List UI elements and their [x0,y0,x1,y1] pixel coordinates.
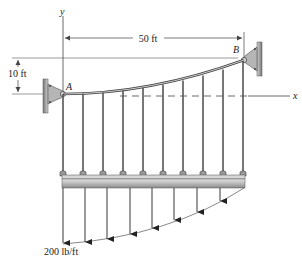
x-axis-label: x [292,90,298,101]
cable-beam-diagram: y 50 ft 10 ft x A B [0,0,302,259]
load-envelope [63,188,244,244]
support-b: B [233,42,262,76]
y-axis-label: y [59,6,65,17]
y-axis: y [59,6,65,92]
cable [63,60,244,94]
hangers [63,61,243,172]
x-axis: x [120,90,298,101]
point-b-label: B [233,44,239,55]
span-dimension: 50 ft [65,32,244,58]
sag-label: 10 ft [8,68,27,79]
support-a: A [43,79,73,113]
span-label: 50 ft [139,33,158,44]
sag-dimension: 10 ft [8,60,27,92]
beam [62,175,245,188]
load-arrows [63,188,220,243]
load-label: 200 lb/ft [44,246,78,257]
point-a-label: A [65,81,73,92]
